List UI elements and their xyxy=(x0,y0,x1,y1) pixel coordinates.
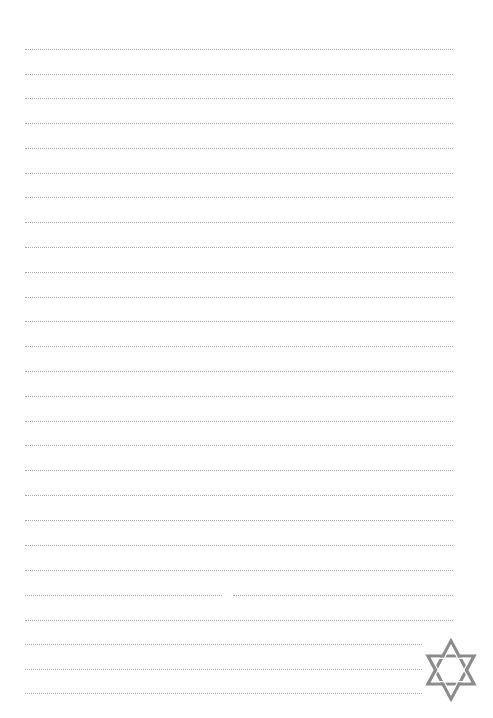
ruled-line xyxy=(25,346,453,347)
ruled-line xyxy=(25,445,453,446)
ruled-line xyxy=(25,74,453,75)
ruled-line xyxy=(25,495,453,496)
ruled-line xyxy=(25,222,453,223)
ruled-line xyxy=(25,520,453,521)
ruled-line xyxy=(25,693,422,694)
ruled-line xyxy=(25,595,222,596)
ruled-line xyxy=(25,197,453,198)
lined-paper-page xyxy=(0,0,493,718)
ruled-line xyxy=(25,297,453,298)
ruled-line xyxy=(25,470,453,471)
ruled-line xyxy=(25,49,453,50)
star-of-david-icon xyxy=(425,638,477,702)
ruled-line xyxy=(25,123,453,124)
ruled-line xyxy=(25,545,453,546)
ruled-line xyxy=(25,421,453,422)
ruled-line xyxy=(25,98,453,99)
ruled-line xyxy=(25,148,453,149)
ruled-line xyxy=(25,272,453,273)
ruled-line xyxy=(25,247,453,248)
ruled-line xyxy=(25,321,453,322)
ruled-line xyxy=(25,371,453,372)
ruled-line xyxy=(25,669,422,670)
ruled-line xyxy=(233,595,453,596)
ruled-line xyxy=(25,570,453,571)
ruled-line xyxy=(25,396,453,397)
ruled-line xyxy=(25,620,453,621)
ruled-line xyxy=(25,644,422,645)
ruled-line xyxy=(25,173,453,174)
